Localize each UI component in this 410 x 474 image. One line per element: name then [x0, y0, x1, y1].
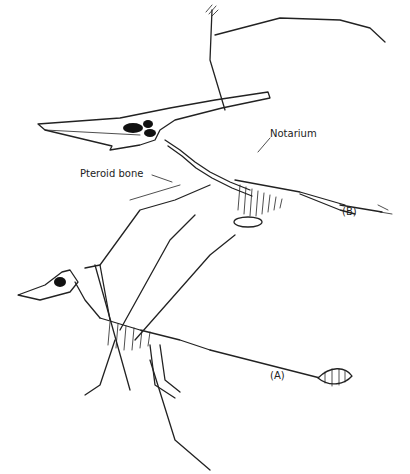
b-ribs [238, 185, 282, 216]
specimen-a-label: (A) [270, 370, 285, 381]
notarium-label: Notarium [270, 128, 317, 139]
specimen-b-skeleton [38, 5, 392, 320]
pteroid-bone-label: Pteroid bone [80, 168, 143, 179]
specimen-b-label: (B) [342, 206, 357, 217]
skeleton-drawing [0, 0, 410, 474]
pterosaur-skeleton-figure: Notarium Pteroid bone (B) (A) [0, 0, 410, 474]
specimen-a-skeleton [18, 215, 352, 470]
pteroid-leader [152, 175, 172, 182]
notarium-leader [258, 138, 270, 152]
